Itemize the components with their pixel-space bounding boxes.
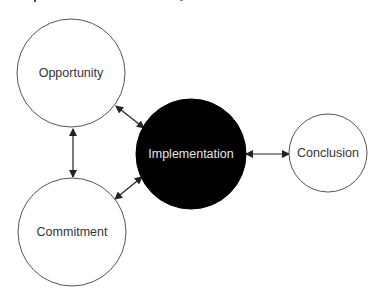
node-label-implementation: Implementation xyxy=(148,147,234,161)
cycle-diagram: OpportunityCommitmentImplementationConcl… xyxy=(0,0,381,302)
arrow-commitment-implementation xyxy=(115,177,142,199)
arrow-opportunity-implementation xyxy=(116,106,144,128)
node-label-conclusion: Conclusion xyxy=(297,146,359,160)
node-implementation: Implementation xyxy=(136,99,246,209)
node-label-commitment: Commitment xyxy=(37,225,108,239)
node-opportunity: Opportunity xyxy=(17,19,125,127)
cropped-text-fragment xyxy=(34,0,36,2)
nodes-group: OpportunityCommitmentImplementationConcl… xyxy=(17,19,367,286)
node-commitment: Commitment xyxy=(18,178,126,286)
node-label-opportunity: Opportunity xyxy=(39,66,104,80)
node-conclusion: Conclusion xyxy=(289,114,367,192)
cropped-text-fragment xyxy=(180,0,183,1)
